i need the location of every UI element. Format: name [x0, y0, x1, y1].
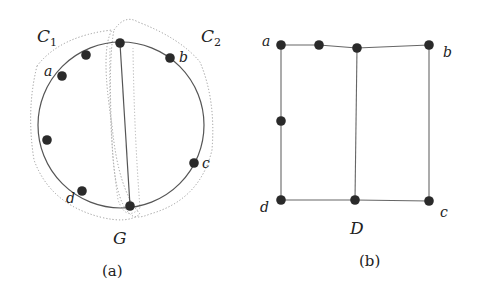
node-left — [276, 116, 286, 126]
node-top — [115, 38, 125, 48]
cluster-c2-boundary — [110, 19, 212, 217]
node-a — [276, 40, 286, 50]
node-n2 — [352, 43, 362, 53]
vertex-label-a: a — [262, 33, 270, 49]
vertex-label-d: d — [66, 190, 75, 206]
figure-a: C1 C2 a b c d G (a) — [31, 19, 221, 280]
graph-label-d: D — [349, 218, 364, 238]
node-d — [77, 186, 87, 196]
node-d — [276, 195, 286, 205]
node-bottom — [125, 201, 135, 211]
node-b — [424, 40, 434, 50]
node-n1 — [314, 40, 324, 50]
node-left — [42, 135, 52, 145]
node-a — [57, 71, 67, 81]
caption-a: (a) — [102, 262, 123, 280]
vertex-label-b: b — [443, 44, 452, 60]
edge-n3-c — [355, 200, 429, 201]
edge-n2-n3 — [355, 48, 357, 200]
vertex-label-a: a — [44, 63, 52, 79]
node-n3 — [350, 195, 360, 205]
cluster-label-c1: C1 — [37, 26, 57, 49]
graph-label-g: G — [113, 228, 127, 248]
chord-edge — [120, 43, 130, 206]
edge-n1-n2 — [319, 45, 357, 48]
vertex-label-d: d — [260, 199, 269, 215]
node-c — [424, 196, 434, 206]
cluster-label-c2: C2 — [201, 26, 221, 49]
vertex-label-c: c — [440, 204, 448, 220]
vertex-label-b: b — [179, 49, 188, 65]
figure-b: a b c d D (b) — [260, 33, 452, 270]
figure-canvas: C1 C2 a b c d G (a) a b c d — [0, 0, 482, 295]
edge-n2-b — [357, 45, 429, 48]
node-n1 — [81, 50, 91, 60]
node-c — [189, 158, 199, 168]
node-b — [165, 53, 175, 63]
caption-b: (b) — [359, 252, 380, 270]
vertex-label-c: c — [202, 155, 210, 171]
